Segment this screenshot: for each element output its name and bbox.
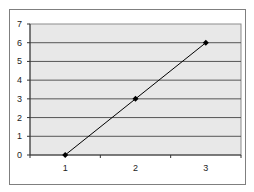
line-chart: 01234567 123 <box>0 0 254 192</box>
y-tick-label: 5 <box>17 56 22 66</box>
x-tick-label: 1 <box>63 163 68 173</box>
y-tick-label: 2 <box>17 113 22 123</box>
x-tick-label: 3 <box>203 163 208 173</box>
x-tick-label: 2 <box>133 163 138 173</box>
y-tick-label: 3 <box>17 94 22 104</box>
x-axis: 123 <box>30 155 241 173</box>
y-axis: 01234567 <box>17 19 30 160</box>
plot-area <box>30 24 241 155</box>
y-tick-label: 0 <box>17 150 22 160</box>
y-tick-label: 7 <box>17 19 22 29</box>
y-tick-label: 1 <box>17 131 22 141</box>
y-tick-label: 6 <box>17 38 22 48</box>
y-tick-label: 4 <box>17 75 22 85</box>
